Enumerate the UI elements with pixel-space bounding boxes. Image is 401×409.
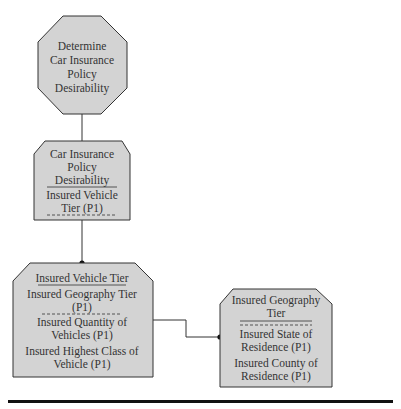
diagram-canvas: Determine Car Insurance Policy Desirabil… xyxy=(0,0,401,409)
entity-key-line: Insured Vehicle Tier xyxy=(35,272,128,284)
process-line: Desirability xyxy=(55,82,110,95)
entity-attribute-line: Vehicles (P1) xyxy=(51,329,113,342)
entity-attribute-line: Tier (P1) xyxy=(61,202,103,215)
edge-vehicle-tier-to-geography-tier xyxy=(153,320,223,340)
process-line: Determine xyxy=(58,40,107,52)
entity-attribute-line: Insured Highest Class of xyxy=(25,345,139,358)
entity-key-line: Policy xyxy=(67,161,97,174)
entity-attribute-line: Residence (P1) xyxy=(241,341,311,354)
entity-key-line: Desirability xyxy=(55,174,110,187)
entity-attribute-line: Insured Quantity of xyxy=(37,316,127,329)
entity-key-line: Insured Geography xyxy=(232,294,321,307)
entity-attribute-line: Insured State of xyxy=(240,328,313,340)
desirability-entity[interactable]: Car Insurance Policy Desirability Insure… xyxy=(34,141,130,220)
vehicle-tier-entity[interactable]: Insured Vehicle Tier Insured Geography T… xyxy=(13,263,153,377)
entity-attribute-line: Insured Geography Tier xyxy=(27,288,137,301)
entity-key-line: Tier xyxy=(267,307,286,319)
entity-attribute-line: Insured Vehicle xyxy=(46,189,118,201)
entity-attribute-line: (P1) xyxy=(72,301,92,314)
entity-attribute-line: Vehicle (P1) xyxy=(53,358,110,371)
edge-desirability-to-vehicle-tier xyxy=(79,220,84,266)
entity-attribute-line: Residence (P1) xyxy=(241,370,311,383)
bottom-rule xyxy=(8,400,393,403)
entity-key-line: Car Insurance xyxy=(50,148,114,160)
edge-line xyxy=(153,320,218,337)
process-line: Policy xyxy=(67,68,97,81)
process-line: Car Insurance xyxy=(50,54,114,66)
geography-tier-entity[interactable]: Insured Geography Tier Insured State of … xyxy=(220,289,332,387)
entity-attribute-line: Insured County of xyxy=(234,357,318,370)
process-node[interactable]: Determine Car Insurance Policy Desirabil… xyxy=(38,16,127,114)
